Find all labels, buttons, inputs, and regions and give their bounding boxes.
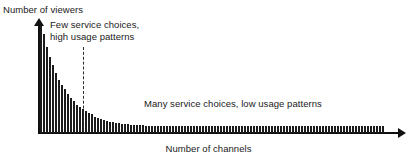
bar (175, 126, 177, 133)
x-axis-label: Number of channels (0, 143, 417, 155)
bar (343, 126, 345, 133)
bar (166, 126, 168, 133)
bar (133, 125, 135, 133)
bar (148, 126, 150, 133)
bar (241, 126, 243, 133)
bar (286, 126, 288, 133)
plot-area (0, 0, 417, 159)
bar (334, 126, 336, 133)
bar (106, 121, 108, 133)
bar (97, 118, 99, 133)
bar (76, 105, 78, 133)
bar (136, 125, 138, 133)
bar (154, 126, 156, 133)
bar (178, 126, 180, 133)
bar (289, 126, 291, 133)
bar (214, 126, 216, 133)
bar (349, 126, 351, 133)
bar (208, 126, 210, 133)
bar (121, 124, 123, 133)
bar (367, 126, 369, 133)
long-tail-chart-figure: Number of viewers Few service choices, h… (0, 0, 417, 159)
bar (202, 126, 204, 133)
bar (319, 126, 321, 133)
bar (49, 57, 51, 133)
bar (58, 80, 60, 133)
bar (313, 126, 315, 133)
bar (127, 124, 129, 133)
bar (151, 126, 153, 133)
bar (301, 126, 303, 133)
bar (250, 126, 252, 133)
bar (238, 126, 240, 133)
bar (358, 126, 360, 133)
bar (145, 126, 147, 133)
bar (316, 126, 318, 133)
bar (139, 125, 141, 133)
x-axis-arrow-icon (398, 128, 406, 138)
bar (298, 126, 300, 133)
bar (382, 126, 384, 133)
bar (226, 126, 228, 133)
bar (172, 126, 174, 133)
bar (52, 65, 54, 133)
bar (43, 34, 45, 133)
bar (103, 120, 105, 133)
bar (109, 122, 111, 133)
bar (142, 125, 144, 133)
bar (376, 126, 378, 133)
bar (130, 125, 132, 133)
bar (184, 126, 186, 133)
bar (46, 47, 48, 133)
bar (223, 126, 225, 133)
bar (124, 124, 126, 133)
bar (331, 126, 333, 133)
bar-series (40, 24, 385, 133)
bar (259, 126, 261, 133)
bar (295, 126, 297, 133)
bar (253, 126, 255, 133)
bar (232, 126, 234, 133)
bar (244, 126, 246, 133)
bar (100, 119, 102, 133)
bar (157, 126, 159, 133)
bar (211, 126, 213, 133)
bar (181, 126, 183, 133)
bar (361, 126, 363, 133)
head-tail-divider (83, 47, 84, 133)
bar (88, 113, 90, 133)
bar (352, 126, 354, 133)
bar (247, 126, 249, 133)
bar (163, 126, 165, 133)
bar (265, 126, 267, 133)
bar (94, 117, 96, 133)
bar (169, 126, 171, 133)
bar (40, 26, 42, 133)
bar (190, 126, 192, 133)
bar (235, 126, 237, 133)
bar (79, 107, 81, 133)
bar (346, 126, 348, 133)
bar (268, 126, 270, 133)
bar (271, 126, 273, 133)
bar (337, 126, 339, 133)
bar (283, 126, 285, 133)
bar (373, 126, 375, 133)
bar (304, 126, 306, 133)
bar (91, 114, 93, 133)
bar (67, 94, 69, 133)
bar (340, 126, 342, 133)
bar (307, 126, 309, 133)
bar (355, 126, 357, 133)
bar (64, 89, 66, 133)
bar (85, 111, 87, 133)
bar (262, 126, 264, 133)
bar (322, 126, 324, 133)
bar (118, 123, 120, 133)
bar (160, 126, 162, 133)
bar (193, 126, 195, 133)
bar (328, 126, 330, 133)
bar (370, 126, 372, 133)
bar (256, 126, 258, 133)
bar (220, 126, 222, 133)
